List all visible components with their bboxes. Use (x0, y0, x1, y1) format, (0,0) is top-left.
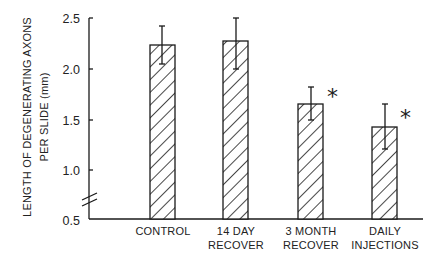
y-tick-labels: 2.5 2.0 1.5 1.0 0.5 (63, 12, 80, 228)
category-label-14-day-line-1: 14 DAY (217, 225, 256, 237)
category-label-daily-line-2: INJECTIONS (351, 239, 418, 251)
y-tick-label: 1.0 (63, 164, 80, 178)
significance-asterisk-daily: * (400, 105, 411, 130)
significance-asterisk-3-month: * (327, 84, 338, 109)
category-label-3-month-line-2: RECOVER (283, 239, 339, 251)
y-tick-label: 2.5 (63, 12, 80, 26)
category-label-daily-line-1: DAILY (369, 225, 401, 237)
x-category-labels: CONTROL 14 DAY RECOVER 3 MONTH RECOVER D… (135, 225, 418, 251)
bar-3-month-recover (298, 104, 323, 219)
bar-chart: LENGTH OF DEGENERATING AXONS PER SLIDE (… (0, 0, 437, 260)
y-tick-label: 2.0 (63, 63, 80, 77)
y-tick-label: 1.5 (63, 114, 80, 128)
error-bars (159, 18, 388, 149)
y-axis-title-line-2: PER SLIDE (mm) (38, 73, 50, 162)
y-axis-title: LENGTH OF DEGENERATING AXONS PER SLIDE (… (21, 17, 50, 217)
bar-control (150, 45, 175, 219)
bars (150, 41, 397, 219)
category-label-control: CONTROL (135, 225, 190, 237)
category-label-3-month-line-1: 3 MONTH (286, 225, 337, 237)
y-axis-title-line-1: LENGTH OF DEGENERATING AXONS (21, 17, 33, 217)
y-tick-label: 0.5 (63, 214, 80, 228)
category-label-14-day-line-2: RECOVER (208, 239, 264, 251)
